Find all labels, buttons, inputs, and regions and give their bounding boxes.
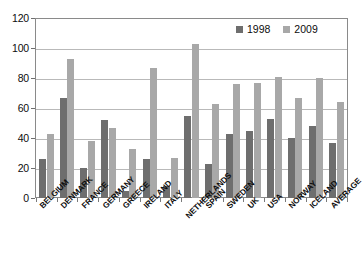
x-axis-tick-mark <box>36 198 37 202</box>
bar-group <box>140 18 161 198</box>
bar-1998-usa <box>267 119 274 199</box>
bar-group <box>77 18 98 198</box>
bar-2009-usa <box>275 77 282 199</box>
bar-2009-ireland <box>150 68 157 199</box>
x-axis-tick-mark <box>264 198 265 202</box>
legend-item-1998: 1998 <box>236 24 270 35</box>
bar-group <box>285 18 306 198</box>
bar-group <box>202 18 223 198</box>
y-axis-tick-label: 20 <box>0 162 29 174</box>
bar-group <box>181 18 202 198</box>
y-axis-tick-mark <box>31 18 35 19</box>
legend-swatch-icon <box>283 26 290 33</box>
bar-group <box>57 18 78 198</box>
y-axis-tick-mark <box>31 108 35 109</box>
legend-label: 1998 <box>247 24 270 35</box>
bar-group <box>98 18 119 198</box>
bar-group <box>36 18 57 198</box>
bar-group <box>160 18 181 198</box>
x-axis-tick-mark <box>306 198 307 202</box>
x-axis-tick-mark <box>77 198 78 202</box>
x-axis-tick-mark <box>98 198 99 202</box>
legend-label: 2009 <box>294 24 317 35</box>
bar-1998-sweden <box>226 134 233 199</box>
bar-2009-netherlands <box>192 44 199 199</box>
bar-group <box>306 18 327 198</box>
legend-swatch-icon <box>236 26 243 33</box>
y-axis-tick-label: 60 <box>0 102 29 114</box>
bar-2009-sweden <box>233 84 240 198</box>
bar-2009-norway <box>295 98 302 199</box>
bar-group <box>326 18 347 198</box>
bar-group <box>119 18 140 198</box>
y-axis-tick-mark <box>31 48 35 49</box>
x-axis-tick-mark <box>326 198 327 202</box>
y-axis-tick-mark <box>31 198 35 199</box>
legend-item-2009: 2009 <box>283 24 317 35</box>
y-axis-tick-label: 80 <box>0 72 29 84</box>
x-axis-tick-mark <box>160 198 161 202</box>
y-axis-tick-label: 40 <box>0 132 29 144</box>
y-axis-tick-mark <box>31 138 35 139</box>
bar-1998-belgium <box>39 159 46 198</box>
bar-group <box>243 18 264 198</box>
x-axis-tick-mark <box>243 198 244 202</box>
bar-2009-uk <box>254 83 261 199</box>
y-axis-tick-mark <box>31 168 35 169</box>
bar-2009-germany <box>109 128 116 199</box>
x-axis-tick-mark <box>140 198 141 202</box>
y-axis-tick-label: 120 <box>0 12 29 24</box>
chart-legend: 19982009 <box>236 24 318 35</box>
x-axis-tick-mark <box>347 198 348 202</box>
bar-2009-denmark <box>67 59 74 199</box>
x-axis-tick-mark <box>285 198 286 202</box>
bar-1998-netherlands <box>184 116 191 199</box>
x-axis-tick-mark <box>181 198 182 202</box>
bar-group <box>264 18 285 198</box>
y-axis-tick-label: 0 <box>0 192 29 204</box>
y-axis-tick-mark <box>31 78 35 79</box>
x-axis-tick-mark <box>223 198 224 202</box>
x-axis-tick-mark <box>57 198 58 202</box>
bar-1998-norway <box>288 138 295 198</box>
bars-layer <box>36 18 347 198</box>
bar-2009-iceland <box>316 78 323 198</box>
y-axis-tick-label: 100 <box>0 42 29 54</box>
